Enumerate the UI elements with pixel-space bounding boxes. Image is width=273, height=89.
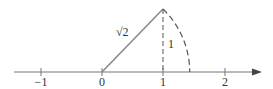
tick-label-0: 0 bbox=[99, 75, 105, 89]
axis-arrowhead-icon bbox=[252, 69, 262, 76]
hypotenuse-label: √2 bbox=[116, 25, 129, 39]
diagram-svg: −1 0 1 2 √2 1 bbox=[0, 0, 273, 89]
tick-label-minus-1: −1 bbox=[35, 75, 48, 89]
tick-label-2: 2 bbox=[222, 75, 228, 89]
vertical-leg-label: 1 bbox=[168, 37, 174, 51]
sqrt2-text: √2 bbox=[116, 25, 129, 39]
sqrt2-number-line-diagram: −1 0 1 2 √2 1 bbox=[0, 0, 273, 89]
compass-arc-dashed bbox=[163, 9, 190, 72]
hypotenuse-line bbox=[102, 9, 163, 72]
tick-label-1: 1 bbox=[160, 75, 166, 89]
